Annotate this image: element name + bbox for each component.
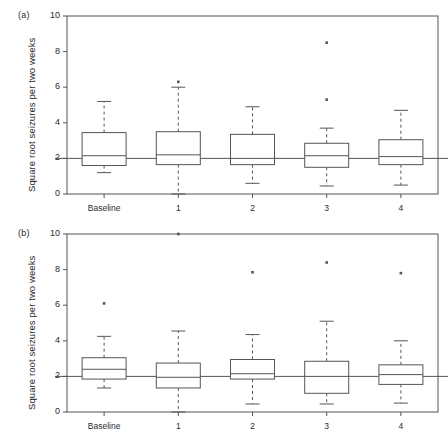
- y-tick-label: 6: [38, 81, 60, 91]
- x-tick-label: 2: [250, 421, 255, 431]
- y-tick-label: 8: [38, 264, 60, 274]
- box-iqr: [231, 134, 275, 164]
- box-iqr: [156, 363, 200, 388]
- panel-b-y-axis-label: Square root seizures per two weeks: [26, 256, 37, 410]
- boxplot-box: [156, 233, 200, 412]
- y-tick-label: 2: [38, 152, 60, 162]
- y-tick-label: 0: [38, 188, 60, 198]
- y-tick-label: 10: [38, 10, 60, 20]
- x-tick-label: 3: [324, 203, 329, 213]
- y-tick-label: 8: [38, 46, 60, 56]
- box-iqr: [82, 358, 126, 379]
- x-tick-label: 2: [250, 203, 255, 213]
- outlier-point: [103, 302, 106, 305]
- panel-a-y-axis-label: Square root seizures per two weeks: [26, 38, 37, 192]
- outlier-point: [177, 81, 180, 84]
- outlier-point: [251, 271, 254, 274]
- outlier-point: [325, 261, 328, 264]
- y-tick-label: 0: [38, 406, 60, 416]
- panel-b-tag: (b): [18, 228, 30, 238]
- boxplot-box: [379, 272, 423, 403]
- x-tick-label: 4: [399, 421, 404, 431]
- x-tick-label: Baseline: [88, 203, 121, 213]
- y-tick-label: 4: [38, 117, 60, 127]
- boxplot-box: [305, 261, 349, 404]
- boxplot-box: [379, 110, 423, 185]
- outlier-point: [325, 98, 328, 101]
- boxplot-box: [231, 107, 275, 184]
- panel-a: (a) Square root seizures per two weeks 1…: [0, 0, 448, 218]
- box-iqr: [82, 133, 126, 166]
- y-tick-label: 2: [38, 370, 60, 380]
- x-tick-label: 3: [324, 421, 329, 431]
- box-iqr: [379, 140, 423, 165]
- boxplot-box: [305, 41, 349, 186]
- boxplot-box: [231, 271, 275, 404]
- x-tick-label: 1: [176, 203, 181, 213]
- panel-b-plot: [0, 218, 448, 436]
- box-iqr: [305, 361, 349, 393]
- box-iqr: [156, 132, 200, 165]
- y-tick-label: 10: [38, 228, 60, 238]
- panel-a-plot: [0, 0, 448, 218]
- outlier-point: [177, 233, 180, 236]
- panel-a-tag: (a): [18, 10, 30, 20]
- x-tick-label: 4: [399, 203, 404, 213]
- boxplot-box: [82, 101, 126, 172]
- boxplot-box: [156, 81, 200, 194]
- outlier-point: [325, 41, 328, 44]
- box-iqr: [231, 359, 275, 379]
- boxplot-box: [82, 302, 126, 388]
- boxplot-figure: (a) Square root seizures per two weeks 1…: [0, 0, 448, 436]
- x-tick-label: 1: [176, 421, 181, 431]
- y-tick-label: 6: [38, 299, 60, 309]
- x-tick-label: Baseline: [88, 421, 121, 431]
- panel-b: (b) Square root seizures per two weeks 1…: [0, 218, 448, 436]
- y-tick-label: 4: [38, 335, 60, 345]
- outlier-point: [400, 272, 403, 275]
